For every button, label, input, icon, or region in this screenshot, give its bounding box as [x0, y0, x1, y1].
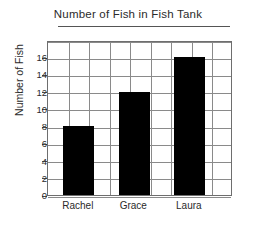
- y-axis-tick-label: 6: [25, 139, 47, 149]
- title-underline: [58, 26, 230, 27]
- x-axis-tick-label: Rachel: [48, 200, 108, 211]
- bar-chart-figure: Number of Fish in Fish Tank Number of Fi…: [0, 0, 256, 227]
- y-axis-tick-label: 0: [25, 191, 47, 201]
- grid-line-horizontal: [48, 197, 231, 198]
- x-axis-tick-label: Laura: [159, 200, 219, 211]
- bars-group: [48, 42, 231, 195]
- y-axis-tick-label: 10: [25, 105, 47, 115]
- y-axis-tick-labels: 0246810121416: [0, 0, 47, 227]
- y-axis-tick-label: 12: [25, 88, 47, 98]
- y-axis-tick-label: 16: [25, 53, 47, 63]
- y-axis-tick-label: 8: [25, 122, 47, 132]
- bar: [63, 126, 94, 195]
- x-axis-tick-label: Grace: [103, 200, 163, 211]
- y-axis-tick-label: 2: [25, 174, 47, 184]
- bar: [174, 57, 205, 195]
- plot-area: [47, 41, 232, 196]
- y-axis-tick-label: 14: [25, 70, 47, 80]
- bar: [119, 92, 150, 195]
- y-axis-tick-label: 4: [25, 157, 47, 167]
